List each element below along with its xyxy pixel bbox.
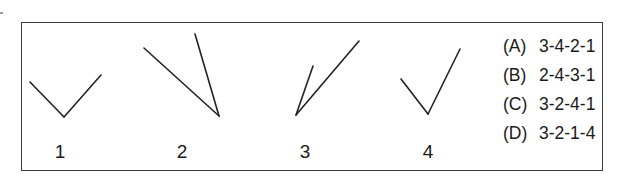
option-letter: (A): [503, 36, 539, 57]
option-c[interactable]: (C) 3-2-4-1: [503, 90, 603, 119]
figure-1-angle: [30, 75, 101, 117]
option-text: 2-4-3-1: [539, 65, 595, 86]
figure-1-label: 1: [45, 141, 75, 163]
option-letter: (D): [503, 123, 539, 144]
option-letter: (C): [503, 94, 539, 115]
option-text: 3-2-4-1: [539, 94, 595, 115]
option-text: 3-4-2-1: [539, 36, 595, 57]
option-a[interactable]: (A) 3-4-2-1: [503, 32, 603, 61]
figure-4-label: 4: [413, 141, 443, 163]
option-b[interactable]: (B) 2-4-3-1: [503, 61, 603, 90]
figure-3-angle: [296, 41, 359, 115]
figure-3-label: 3: [290, 141, 320, 163]
figure-2-label: 2: [167, 141, 197, 163]
option-letter: (B): [503, 65, 539, 86]
option-text: 3-2-1-4: [539, 123, 595, 144]
option-d[interactable]: (D) 3-2-1-4: [503, 119, 603, 148]
answer-options: (A) 3-4-2-1 (B) 2-4-3-1 (C) 3-2-4-1 (D) …: [503, 32, 603, 148]
figure-2-angle: [144, 34, 219, 116]
figure-4-angle: [401, 49, 460, 114]
